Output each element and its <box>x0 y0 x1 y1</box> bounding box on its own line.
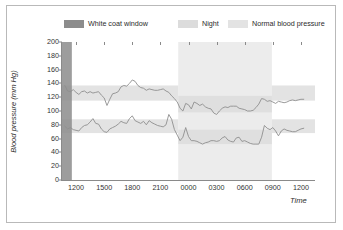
legend-item-white-coat-window: White coat window <box>64 17 148 30</box>
y-tick-label: 160 <box>47 66 59 73</box>
x-tick-mark <box>160 42 161 45</box>
legend-label-night: Night <box>202 20 219 27</box>
figure: White coat window Night Normal blood pre… <box>0 0 343 230</box>
data-lines <box>62 42 315 180</box>
y-tick-label: 180 <box>47 52 59 59</box>
x-tick-label: 0300 <box>209 184 225 191</box>
series-line-systolic <box>65 80 304 115</box>
y-tick-label: 100 <box>47 107 59 114</box>
x-tick-label: 0600 <box>237 184 253 191</box>
x-tick-mark <box>245 42 246 45</box>
x-tick-label: 2100 <box>152 184 168 191</box>
y-axis-label: Blood pressure (mm Hg) <box>7 42 19 180</box>
plot-area: 020406080100120140160180200 120015001800… <box>62 42 315 180</box>
legend-label-normal-blood-pressure: Normal blood pressure <box>252 20 325 27</box>
x-tick-mark <box>104 42 105 45</box>
legend-swatch-normal-blood-pressure <box>228 20 248 28</box>
y-tick-label: 60 <box>51 135 59 142</box>
y-tick-label: 140 <box>47 80 59 87</box>
x-tick-mark <box>76 42 77 45</box>
x-tick-label: 1500 <box>96 184 112 191</box>
y-tick-label: 40 <box>51 149 59 156</box>
x-tick-label: 0900 <box>265 184 281 191</box>
x-tick-mark <box>301 42 302 45</box>
x-tick-label: 1800 <box>124 184 140 191</box>
x-tick-mark <box>132 42 133 45</box>
x-tick-label: 0000 <box>181 184 197 191</box>
legend-label-white-coat-window: White coat window <box>88 20 148 27</box>
legend-item-normal-blood-pressure: Normal blood pressure <box>228 17 325 30</box>
y-tick-label: 120 <box>47 94 59 101</box>
x-tick-label: 1200 <box>293 184 309 191</box>
legend-swatch-white-coat-window <box>64 20 84 28</box>
y-tick-label: 80 <box>51 121 59 128</box>
x-tick-mark <box>189 42 190 45</box>
x-tick-mark <box>273 42 274 45</box>
x-axis-label: Time <box>290 196 307 205</box>
y-tick-label: 200 <box>47 38 59 45</box>
y-axis-label-text: Blood pressure (mm Hg) <box>9 70 18 153</box>
y-tick-label: 20 <box>51 163 59 170</box>
x-tick-label: 1200 <box>68 184 84 191</box>
y-axis-line <box>61 42 62 180</box>
x-tick-mark <box>217 42 218 45</box>
x-axis-line <box>61 180 315 181</box>
series-line-diastolic <box>65 114 304 144</box>
legend-item-night: Night <box>178 17 219 30</box>
legend-swatch-night <box>178 20 198 28</box>
legend: White coat window Night Normal blood pre… <box>0 17 343 31</box>
